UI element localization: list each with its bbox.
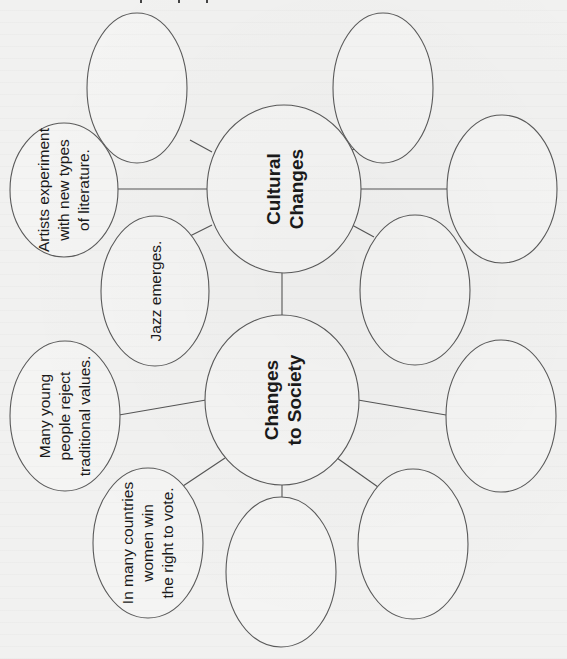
artists-line3: of literature. xyxy=(75,149,92,231)
concept-web-diagram: Cultural Changes Changes to Society Arti… xyxy=(0,0,567,659)
oval-society-right-blank[interactable] xyxy=(446,340,556,492)
hub-cultural-changes xyxy=(207,105,361,273)
jazz-label: Jazz emerges. xyxy=(147,241,164,342)
hub-changes-to-society xyxy=(205,315,359,485)
connector-society-bottom-right xyxy=(337,458,378,487)
women-line3: the right to vote. xyxy=(159,487,176,598)
artists-line1: Artists experiment xyxy=(35,127,52,252)
connector-cultural-jazz xyxy=(190,225,212,236)
hub-cultural-line2: Changes xyxy=(286,149,307,229)
connector-society-right xyxy=(358,400,446,415)
connector-cultural-lower-right xyxy=(352,225,374,237)
young-line2: people reject xyxy=(56,371,73,460)
hub-society-line1: Changes xyxy=(261,360,282,440)
hub-cultural-line1: Cultural xyxy=(263,153,284,225)
oval-society-bottom-right-blank[interactable] xyxy=(358,469,468,619)
cropped-text-fragments xyxy=(140,0,208,3)
oval-cultural-right-blank[interactable] xyxy=(447,115,557,263)
women-line2: women win xyxy=(139,504,156,583)
oval-society-bottom-blank[interactable] xyxy=(226,497,336,647)
artists-line2: with new types xyxy=(55,139,72,242)
young-label: Many young people reject traditional val… xyxy=(36,356,93,477)
hub-society-line2: to Society xyxy=(284,354,305,445)
jazz-line1: Jazz emerges. xyxy=(147,241,164,342)
oval-cultural-top-left-blank[interactable] xyxy=(87,13,187,163)
oval-cultural-lower-right-blank[interactable] xyxy=(360,215,470,365)
young-line3: traditional values. xyxy=(76,356,93,477)
diagram-svg: Cultural Changes Changes to Society Arti… xyxy=(0,0,567,659)
connector-cultural-top-left xyxy=(190,140,212,152)
oval-cultural-top-right-blank[interactable] xyxy=(333,13,433,163)
young-line1: Many young xyxy=(36,374,53,458)
women-line1: In many countries xyxy=(119,482,136,605)
connector-society-young xyxy=(119,400,206,415)
connector-society-women xyxy=(183,458,225,486)
